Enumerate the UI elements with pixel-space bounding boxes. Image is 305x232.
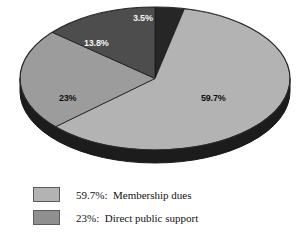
legend-item-membership-dues[interactable]: 59.7%: Membership dues bbox=[33, 184, 299, 205]
legend-swatch-icon-direct-public-support bbox=[33, 210, 60, 225]
legend-label-membership-dues: 59.7%: Membership dues bbox=[76, 189, 191, 201]
pie-chart-plot-area: 59.7% 23% 13.8% 3.5% bbox=[0, 0, 305, 172]
pie-chart-svg bbox=[0, 0, 305, 172]
legend-swatch-icon-membership-dues bbox=[33, 187, 60, 202]
pie-slices bbox=[20, 7, 290, 150]
legend-label-direct-public-support: 23%: Direct public support bbox=[76, 212, 198, 224]
chart-legend: 59.7%: Membership dues 23%: Direct publi… bbox=[33, 184, 299, 230]
pie-chart-figure: 59.7% 23% 13.8% 3.5% 59.7%: Membership d… bbox=[0, 0, 305, 232]
legend-item-direct-public-support[interactable]: 23%: Direct public support bbox=[33, 207, 299, 228]
